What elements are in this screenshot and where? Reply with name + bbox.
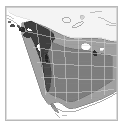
northern-lake-1: [80, 15, 84, 19]
interior-lake-white: [81, 43, 91, 50]
interior-lake-white-2: [100, 48, 104, 51]
map-figure: [0, 0, 124, 130]
map-frame: [5, 6, 118, 121]
map-canvas[interactable]: [6, 7, 117, 120]
